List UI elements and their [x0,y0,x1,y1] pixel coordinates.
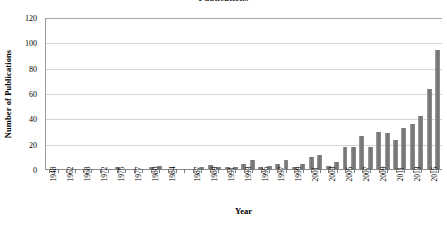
bar-2009 [376,132,381,170]
x-label-slot [87,174,95,202]
bars-layer [46,18,442,170]
x-label-slot [366,174,374,202]
x-label-slot [138,174,146,202]
bar-slot [46,18,54,170]
x-label-slot: 1968 [79,174,87,202]
y-tick-label-0: 0 [33,166,37,175]
bar-slot [400,18,408,170]
x-label-slot: 1999 [290,174,298,202]
y-tick-label-120: 120 [25,14,37,23]
bar-2014 [418,116,423,170]
x-label-slot: 1995 [256,174,264,202]
x-label-slot [180,174,188,202]
x-label-slot [248,174,256,202]
bar-2012 [401,128,406,170]
bar-slot [366,18,374,170]
x-label-slot [299,174,307,202]
bar-slot [214,18,222,170]
bar-slot [147,18,155,170]
x-label-slot: 2011 [392,174,400,202]
bar-slot [113,18,121,170]
bar-2007 [359,136,364,170]
y-axis-tick-labels: 120100806040200 [14,18,40,170]
bar-slot [341,18,349,170]
bar-slot [358,18,366,170]
x-label-slot: 2001 [307,174,315,202]
x-label-slot: 2007 [358,174,366,202]
bar-slot [265,18,273,170]
x-label-slot [400,174,408,202]
bar-slot [417,18,425,170]
bar-slot [54,18,62,170]
x-label-slot: 1975 [113,174,121,202]
plot-area [45,18,442,170]
bar-slot [307,18,315,170]
bar-slot [433,18,441,170]
y-tick-label-60: 60 [29,90,37,99]
x-label-slot: 2003 [324,174,332,202]
x-label-slot [349,174,357,202]
x-label-slot: 1984 [163,174,171,202]
bar-slot [349,18,357,170]
bar-slot [172,18,180,170]
x-label-slot: 1997 [273,174,281,202]
x-label-slot: 2015 [425,174,433,202]
y-tick-label-20: 20 [29,140,37,149]
x-label-slot [121,174,129,202]
tick-mark [286,170,287,173]
x-label-slot: 1987 [189,174,197,202]
x-label-slot: 1977 [130,174,138,202]
publications-bar-chart: Publications Number of Publications 1201… [0,0,447,226]
x-label-slot [316,174,324,202]
bar-slot [189,18,197,170]
bar-slot [181,18,189,170]
bar-slot [332,18,340,170]
bar-slot [240,18,248,170]
bar-slot [122,18,130,170]
x-label-slot [172,174,180,202]
x-label-slot: 1989 [206,174,214,202]
bar-slot [130,18,138,170]
x-label-slot: 1980 [146,174,154,202]
x-label-slot [265,174,273,202]
x-label-slot [214,174,222,202]
bar-slot [248,18,256,170]
bar-slot [155,18,163,170]
x-label-slot [332,174,340,202]
x-axis-title: Year [45,206,442,216]
x-label-slot [70,174,78,202]
x-label-slot [383,174,391,202]
x-label-slot [104,174,112,202]
bar-slot [282,18,290,170]
x-label-slot [155,174,163,202]
x-label-slot [282,174,290,202]
y-axis-title-label: Number of Publications [3,50,13,138]
x-axis-tick-labels: 1948196219681972197519771980198419871989… [45,174,442,202]
bar-slot [223,18,231,170]
x-label-slot [53,174,61,202]
x-label-slot: 1962 [62,174,70,202]
x-label-slot: 2009 [375,174,383,202]
bar-2015 [427,89,432,170]
bar-slot [80,18,88,170]
bar-slot [391,18,399,170]
x-label-slot: 2013 [408,174,416,202]
bar-2013 [410,124,415,170]
bar-slot [97,18,105,170]
bar-slot [324,18,332,170]
y-axis-title: Number of Publications [2,18,14,170]
x-label-slot [434,174,442,202]
bar-slot [316,18,324,170]
bar-slot [88,18,96,170]
bar-slot [198,18,206,170]
bar-slot [425,18,433,170]
bar-slot [231,18,239,170]
chart-title: Publications [0,0,447,2]
x-label-slot: 1948 [45,174,53,202]
y-tick-label-40: 40 [29,115,37,124]
tick-mark [184,170,185,173]
bar-slot [299,18,307,170]
x-label-slot [417,174,425,202]
x-label-slot [197,174,205,202]
bar-slot [63,18,71,170]
